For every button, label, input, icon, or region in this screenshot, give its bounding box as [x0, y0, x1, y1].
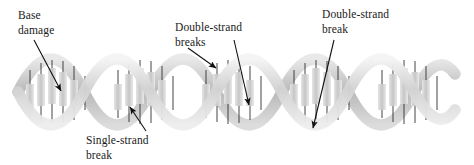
label-single-strand-break-line1: Single-strand — [86, 134, 149, 146]
label-double-strand-break-line2: break — [322, 22, 389, 37]
label-single-strand-break-line2: break — [86, 148, 149, 163]
label-single-strand-break: Single-strand break — [86, 133, 149, 162]
label-double-strand-breaks: Double-strand breaks — [175, 20, 242, 49]
label-base-damage-line2: damage — [18, 23, 54, 38]
label-double-strand-break-line1: Double-strand — [322, 8, 389, 20]
label-double-strand-breaks-line1: Double-strand — [175, 21, 242, 33]
label-double-strand-breaks-line2: breaks — [175, 35, 242, 50]
label-double-strand-break: Double-strand break — [322, 7, 389, 36]
label-base-damage-line1: Base — [18, 9, 41, 21]
label-base-damage: Base damage — [18, 8, 54, 37]
dna-damage-diagram: Base damage Double-strand breaks Double-… — [0, 0, 474, 165]
